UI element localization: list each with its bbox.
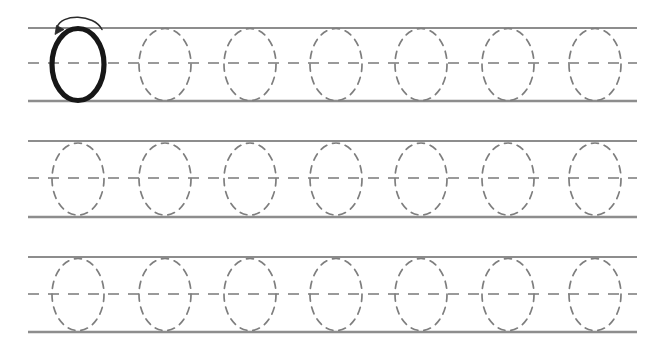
stroke-direction-arrow xyxy=(55,17,102,34)
trace-letter-o xyxy=(310,143,362,215)
trace-letter-o xyxy=(395,29,447,101)
trace-letter-o xyxy=(482,29,534,101)
trace-letter-o xyxy=(139,29,191,101)
row-3 xyxy=(28,257,637,332)
trace-letter-o xyxy=(224,29,276,101)
model-letter-o xyxy=(52,29,104,101)
trace-letter-o xyxy=(395,143,447,215)
row-2 xyxy=(28,141,637,217)
trace-letter-o xyxy=(310,29,362,101)
trace-letter-o xyxy=(395,259,447,331)
trace-letter-o xyxy=(569,143,621,215)
tracing-worksheet xyxy=(0,0,667,362)
trace-letter-o xyxy=(224,143,276,215)
trace-letter-o xyxy=(139,259,191,331)
trace-letter-o xyxy=(52,143,104,215)
trace-letter-o xyxy=(569,29,621,101)
trace-letter-o xyxy=(482,143,534,215)
worksheet-canvas xyxy=(0,0,667,362)
trace-letter-o xyxy=(139,143,191,215)
row-1 xyxy=(28,17,637,101)
